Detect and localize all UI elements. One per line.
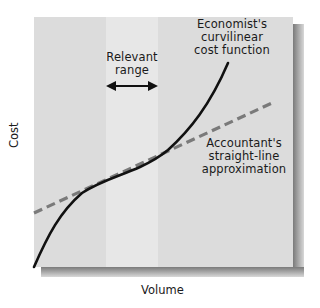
plot-shadow-bottom	[41, 267, 304, 277]
economist-label: Economist's curvilinear cost function	[190, 18, 274, 57]
accountant-label: Accountant's straight-line approximation	[200, 137, 288, 176]
cost-function-diagram: Relevant range Economist's curvilinear c…	[0, 0, 320, 308]
relevant-range-label: Relevant range	[104, 51, 160, 77]
plot-shadow-right	[293, 24, 304, 277]
economist-line3: cost function	[190, 44, 274, 57]
x-axis-label: Volume	[141, 283, 184, 297]
accountant-line3: approximation	[200, 163, 288, 176]
relevant-range-line2: range	[104, 64, 160, 77]
y-axis-label: Cost	[7, 122, 21, 148]
